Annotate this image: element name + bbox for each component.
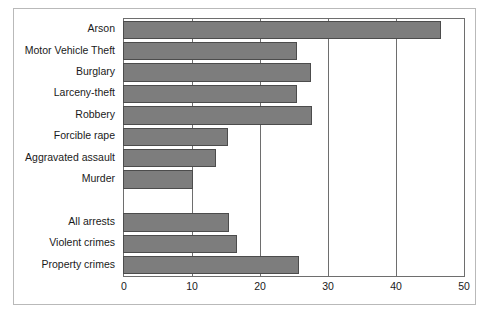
plot-area	[123, 18, 465, 277]
bar[interactable]	[123, 256, 299, 274]
chart-figure: ArsonMotor Vehicle TheftBurglaryLarceny-…	[0, 0, 488, 317]
bar-row	[124, 106, 464, 124]
x-axis-tick-label: 10	[186, 281, 198, 292]
bar-row	[124, 42, 464, 60]
bar[interactable]	[123, 170, 193, 188]
bar-row	[124, 170, 464, 188]
y-axis-label: Violent crimes	[49, 237, 115, 248]
bar[interactable]	[123, 21, 441, 39]
bar-row	[124, 256, 464, 274]
bar-row	[124, 213, 464, 231]
bar[interactable]	[123, 42, 297, 60]
bar-row	[124, 63, 464, 81]
bar[interactable]	[123, 149, 216, 167]
x-axis-tick-label: 40	[390, 281, 402, 292]
y-axis-label: Murder	[82, 173, 115, 184]
x-axis-tick-label: 30	[322, 281, 334, 292]
bar[interactable]	[123, 213, 229, 231]
bar[interactable]	[123, 128, 228, 146]
y-axis-label: Burglary	[76, 66, 115, 77]
bar[interactable]	[123, 235, 237, 253]
x-axis-tick-label: 20	[254, 281, 266, 292]
x-axis-tick-label: 0	[121, 281, 127, 292]
y-axis-label: Robbery	[75, 109, 115, 120]
bar[interactable]	[123, 85, 297, 103]
y-axis-label: Property crimes	[41, 259, 115, 270]
bar[interactable]	[123, 63, 311, 81]
bar-row	[124, 21, 464, 39]
x-axis-tick-labels: 01020304050	[0, 281, 488, 297]
bar[interactable]	[123, 106, 312, 124]
bar-row	[124, 235, 464, 253]
y-axis-label: Arson	[88, 23, 115, 34]
y-axis-label: Aggravated assault	[25, 152, 115, 163]
y-axis-category-labels: ArsonMotor Vehicle TheftBurglaryLarceny-…	[0, 18, 119, 277]
bar-row	[124, 149, 464, 167]
y-axis-label: Forcible rape	[54, 130, 115, 141]
bar-row	[124, 85, 464, 103]
y-axis-label: Motor Vehicle Theft	[25, 45, 115, 56]
bars-layer	[124, 19, 464, 276]
y-axis-label: Larceny-theft	[54, 87, 115, 98]
x-axis-tick-label: 50	[458, 281, 470, 292]
bar-row	[124, 128, 464, 146]
y-axis-label: All arrests	[68, 216, 115, 227]
